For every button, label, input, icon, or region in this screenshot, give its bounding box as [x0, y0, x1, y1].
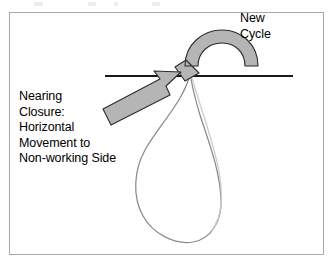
label-nearing-closure: Nearing Closure: Horizontal Movement to … [19, 89, 116, 167]
figure-container: New Cycle Nearing Closure: Horizontal Mo… [0, 0, 334, 265]
label-new-cycle: New Cycle [240, 11, 271, 42]
